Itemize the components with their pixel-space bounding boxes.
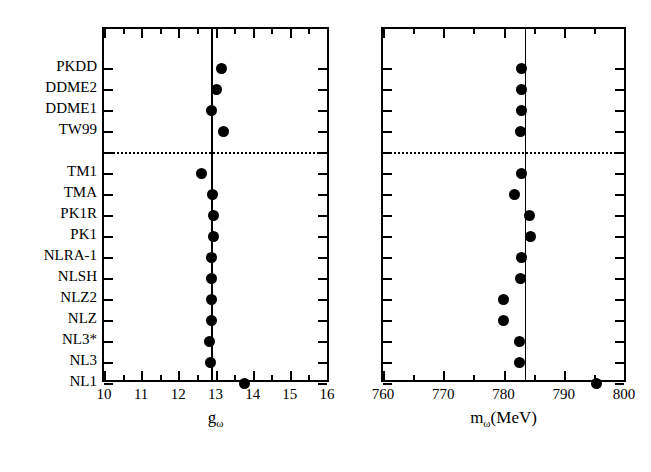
x-tick-minor	[234, 29, 236, 34]
category-label-tm1: TM1	[67, 164, 97, 179]
x-tick-label: 12	[171, 386, 186, 403]
plot-area-g-omega	[104, 29, 327, 380]
axis-title-subscript: ω	[483, 417, 490, 429]
y-tick	[104, 341, 113, 343]
data-point-nl3	[514, 357, 525, 368]
x-tick-major	[178, 371, 180, 380]
x-tick-major	[443, 29, 445, 38]
y-tick	[104, 299, 113, 301]
y-tick	[615, 383, 624, 385]
x-tick-major	[216, 29, 218, 38]
y-tick	[318, 341, 327, 343]
x-tick-minor	[473, 375, 475, 380]
y-tick	[318, 362, 327, 364]
y-tick	[383, 215, 392, 217]
y-tick	[615, 236, 624, 238]
x-tick-minor	[473, 29, 475, 34]
y-tick	[383, 341, 392, 343]
y-tick	[104, 194, 113, 196]
y-tick	[104, 89, 113, 91]
x-tick-label: 760	[372, 386, 395, 403]
x-tick-major	[504, 29, 506, 38]
axis-title: mω(MeV)	[470, 408, 537, 428]
x-tick-minor	[413, 375, 415, 380]
category-label-nlz: NLZ	[68, 311, 97, 326]
y-tick	[318, 278, 327, 280]
y-tick	[383, 257, 392, 259]
y-tick	[383, 236, 392, 238]
x-tick-minor	[308, 375, 310, 380]
x-tick-minor	[234, 375, 236, 380]
y-tick	[104, 215, 113, 217]
x-tick-label: 800	[613, 386, 636, 403]
x-tick-label: 10	[97, 386, 112, 403]
y-tick	[615, 110, 624, 112]
x-tick-minor	[308, 29, 310, 34]
data-point-nlz	[206, 315, 217, 326]
plot-panel-g-omega	[102, 27, 329, 382]
y-tick	[615, 299, 624, 301]
axis-title-units: (MeV)	[491, 408, 537, 427]
data-point-ddme2	[516, 84, 527, 95]
axis-title-base: g	[208, 408, 217, 427]
data-point-pkdd	[516, 63, 527, 74]
reference-line	[211, 29, 213, 380]
x-tick-minor	[534, 375, 536, 380]
category-label-nl3: NL3*	[62, 332, 97, 347]
data-point-tw99	[218, 126, 229, 137]
category-label-tw99: TW99	[59, 122, 97, 137]
y-tick	[104, 110, 113, 112]
x-tick-label: 11	[134, 386, 148, 403]
y-tick	[615, 215, 624, 217]
data-point-pk1	[525, 231, 536, 242]
x-tick-minor	[594, 29, 596, 34]
x-tick-major	[443, 371, 445, 380]
axis-title-base: m	[470, 408, 483, 427]
data-point-ddme1	[206, 105, 217, 116]
y-tick	[383, 131, 392, 133]
plot-area-m-omega	[383, 29, 624, 380]
x-tick-major	[290, 371, 292, 380]
y-tick	[615, 194, 624, 196]
x-tick-major	[141, 29, 143, 38]
y-tick	[383, 194, 392, 196]
x-tick-major	[141, 371, 143, 380]
y-tick	[615, 89, 624, 91]
x-tick-minor	[413, 29, 415, 34]
x-tick-major	[104, 371, 106, 380]
data-point-pk1	[208, 231, 219, 242]
category-label-nl1: NL1	[70, 374, 98, 389]
y-tick	[104, 236, 113, 238]
y-tick	[383, 89, 392, 91]
data-point-nl3	[204, 336, 215, 347]
y-tick	[318, 173, 327, 175]
category-label-ddme2: DDME2	[45, 80, 97, 95]
x-tick-major	[383, 29, 385, 38]
y-tick	[318, 383, 327, 385]
x-tick-minor	[271, 29, 273, 34]
data-point-tma	[207, 189, 218, 200]
figure-panel-group: PKDDDDME2DDME1TW99TM1TMAPK1RPK1NLRA-1NLS…	[0, 0, 651, 472]
data-point-nlra-1	[516, 252, 527, 263]
x-tick-major	[624, 29, 626, 38]
group-separator-line	[104, 152, 327, 154]
x-tick-major	[564, 29, 566, 38]
x-tick-label: 16	[320, 386, 335, 403]
axis-title: gω	[208, 408, 224, 428]
y-tick	[318, 257, 327, 259]
x-tick-major	[253, 29, 255, 38]
y-tick	[615, 68, 624, 70]
y-tick	[615, 131, 624, 133]
y-tick	[383, 383, 392, 385]
data-point-tma	[509, 189, 520, 200]
group-separator-line	[383, 152, 624, 154]
category-label-pkdd: PKDD	[56, 59, 97, 74]
y-tick	[318, 299, 327, 301]
x-tick-minor	[160, 375, 162, 380]
y-tick	[318, 110, 327, 112]
x-tick-major	[327, 29, 329, 38]
data-point-ddme1	[516, 105, 527, 116]
data-point-ddme2	[211, 84, 222, 95]
data-point-pk1r	[208, 210, 219, 221]
y-tick	[104, 362, 113, 364]
